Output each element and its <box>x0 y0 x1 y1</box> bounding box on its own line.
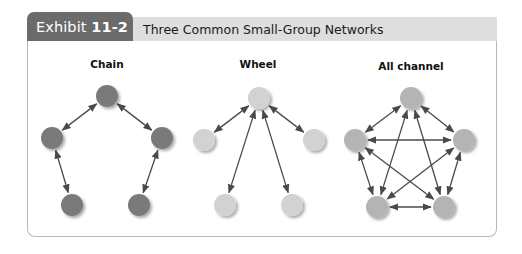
all-channel-node <box>453 129 475 151</box>
chain-node <box>151 127 173 149</box>
all-channel-node <box>400 87 422 109</box>
labels-layer: ChainWheelAll channel <box>90 58 443 72</box>
two-way-arrow <box>359 152 373 194</box>
all-channel-node <box>366 196 388 218</box>
two-way-arrow <box>415 110 440 194</box>
two-way-arrow <box>269 106 303 132</box>
two-way-arrow <box>263 110 288 192</box>
networks-diagram: ChainWheelAll channel <box>0 0 522 254</box>
two-way-arrow <box>214 106 248 132</box>
chain-node <box>128 194 150 216</box>
wheel-node <box>281 194 303 216</box>
two-way-arrow <box>421 106 454 132</box>
nodes-layer <box>41 85 475 218</box>
all-channel-label: All channel <box>378 60 443 72</box>
wheel-node <box>303 129 325 151</box>
all-channel-node <box>433 196 455 218</box>
two-way-arrow <box>143 150 158 192</box>
two-way-arrow <box>381 110 407 194</box>
wheel-node <box>248 87 270 109</box>
edges-layer <box>56 104 461 207</box>
two-way-arrow <box>365 106 400 132</box>
two-way-arrow <box>117 104 151 130</box>
two-way-arrow <box>387 148 453 199</box>
chain-node <box>41 127 63 149</box>
two-way-arrow <box>365 148 433 199</box>
two-way-arrow <box>448 152 461 194</box>
wheel-node <box>193 129 215 151</box>
two-way-arrow <box>229 110 255 192</box>
chain-node <box>61 194 83 216</box>
wheel-node <box>214 194 236 216</box>
chain-label: Chain <box>90 58 123 70</box>
chain-node <box>96 85 118 107</box>
wheel-label: Wheel <box>240 58 277 70</box>
two-way-arrow <box>56 150 69 192</box>
two-way-arrow <box>62 104 96 130</box>
all-channel-node <box>344 129 366 151</box>
